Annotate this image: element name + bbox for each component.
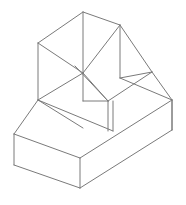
wireframe-segment-upper-left-face-bottom xyxy=(38,73,83,100)
wireframe-segment-top-front-left-ridge xyxy=(38,43,83,73)
wireframe-segment-notch-diagonal-b xyxy=(75,66,108,101)
wireframe-segment-base-top-left-front xyxy=(14,134,80,158)
wireframe-segment-top-back-right-ridge xyxy=(83,12,120,25)
isometric-wireframe-figure xyxy=(0,0,186,205)
wireframe-segment-base-bottom-left xyxy=(14,165,80,188)
wireframe-segment-top-back-left-ridge xyxy=(38,12,83,43)
wireframe-line-group xyxy=(14,12,172,188)
wireframe-segment-top-front-right-ridge xyxy=(83,25,120,73)
wireframe-segment-base-top-front-right xyxy=(80,100,172,158)
wireframe-drawing xyxy=(0,0,186,205)
wireframe-segment-base-top-mid-diagonal xyxy=(38,100,113,131)
wireframe-segment-base-top-back-left xyxy=(14,100,38,134)
wireframe-segment-mid-shelf-left xyxy=(38,100,83,128)
wireframe-segment-base-bottom-right xyxy=(80,130,172,188)
wireframe-segment-slant-chamfer-edge xyxy=(120,25,152,72)
